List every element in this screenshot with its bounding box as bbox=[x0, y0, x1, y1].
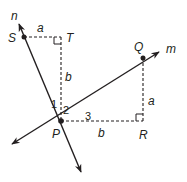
label-segment-PR: b bbox=[98, 126, 105, 140]
label-angle-1: 1 bbox=[51, 98, 57, 110]
label-line-n: n bbox=[11, 9, 18, 23]
line-n bbox=[19, 24, 81, 172]
label-point-R: R bbox=[139, 128, 148, 142]
label-segment-TP: b bbox=[65, 70, 72, 84]
label-angle-3: 3 bbox=[85, 110, 91, 122]
geometry-diagram: n m S T Q P R a b b a 1 2 3 bbox=[0, 0, 187, 182]
line-m bbox=[12, 52, 159, 144]
label-point-S: S bbox=[8, 31, 16, 45]
label-point-Q: Q bbox=[134, 40, 143, 54]
label-point-T: T bbox=[66, 31, 75, 45]
point-P bbox=[58, 118, 64, 124]
label-segment-ST: a bbox=[37, 21, 44, 35]
label-point-P: P bbox=[52, 127, 60, 141]
point-Q bbox=[141, 56, 146, 61]
right-angle-mark-T bbox=[54, 37, 61, 44]
label-angle-2: 2 bbox=[63, 104, 69, 116]
label-segment-QR: a bbox=[148, 94, 155, 108]
point-S bbox=[22, 35, 27, 40]
right-angle-mark-R bbox=[136, 114, 143, 121]
label-line-m: m bbox=[166, 42, 176, 56]
